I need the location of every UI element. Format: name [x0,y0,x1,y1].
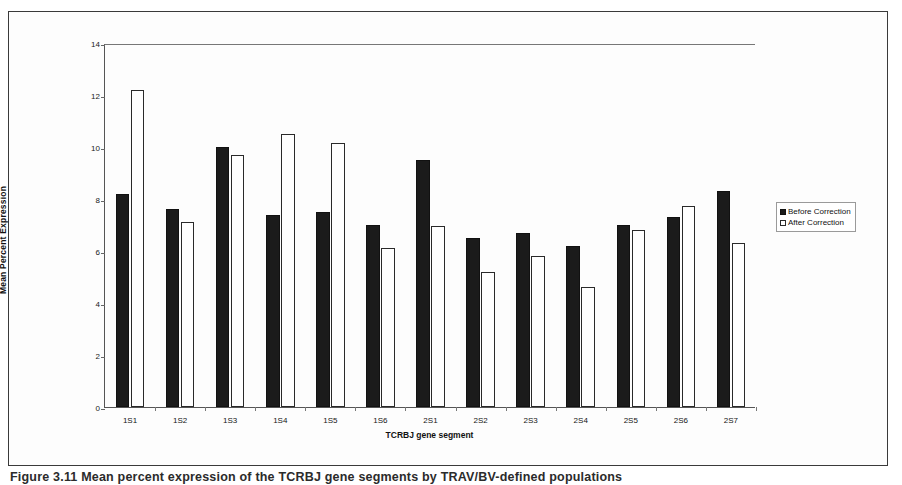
bar-before-correction[interactable] [667,217,681,407]
x-axis-tick-label: 1S4 [255,417,305,425]
bar-after-correction[interactable] [181,222,195,407]
bar-group: 1S2 [155,45,205,407]
chart-legend: Before Correction After Correction [776,202,856,232]
bar-before-correction[interactable] [266,215,280,407]
bar-group: 1S3 [205,45,255,407]
y-axis-title: Mean Percent Expression [0,185,8,293]
bar-before-correction[interactable] [166,209,180,407]
x-axis-tick-mark [155,407,156,411]
legend-item-before[interactable]: Before Correction [780,206,851,217]
bar-group: 2S6 [656,45,706,407]
bar-before-correction[interactable] [466,238,480,407]
bar-before-correction[interactable] [617,225,631,407]
y-axis-tick-label: 6 [74,249,100,257]
plot-area: 024681012141S11S21S31S41S51S62S12S22S32S… [104,44,755,408]
bar-after-correction[interactable] [231,155,245,407]
scanned-page: Mean Percent Expression 024681012141S11S… [0,0,902,485]
bar-after-correction[interactable] [331,143,345,407]
bar-group: 1S4 [255,45,305,407]
x-axis-tick-mark [456,407,457,411]
legend-label-before: Before Correction [788,207,851,216]
legend-item-after[interactable]: After Correction [780,217,851,228]
y-axis-tick-label: 4 [74,301,100,309]
figure-border: Mean Percent Expression 024681012141S11S… [8,11,888,466]
x-axis-tick-label: 2S3 [506,417,556,425]
bar-group: 2S5 [606,45,656,407]
x-axis-tick-label: 2S5 [606,417,656,425]
bar-before-correction[interactable] [566,246,580,407]
legend-swatch-filled-square-icon [780,209,786,215]
bar-group: 1S5 [305,45,355,407]
x-axis-tick-mark [506,407,507,411]
figure-caption: Figure 3.11 Mean percent expression of t… [10,470,894,485]
x-axis-tick-mark [405,407,406,411]
x-axis-tick-label: 1S5 [305,417,355,425]
x-axis-tick-label: 1S1 [105,417,155,425]
legend-swatch-open-square-icon [780,220,786,226]
y-axis-tick-label: 2 [74,353,100,361]
y-axis-tick-label: 12 [74,93,100,101]
x-axis-tick-label: 2S4 [556,417,606,425]
bar-group: 1S1 [105,45,155,407]
bar-group: 2S7 [706,45,756,407]
x-axis-tick-mark [556,407,557,411]
x-axis-tick-mark [355,407,356,411]
x-axis-tick-mark [656,407,657,411]
bar-before-correction[interactable] [516,233,530,407]
y-axis-tick-label: 10 [74,145,100,153]
bar-after-correction[interactable] [431,226,445,407]
bar-chart: Mean Percent Expression 024681012141S11S… [9,12,889,467]
bar-after-correction[interactable] [732,243,746,407]
bar-group: 2S1 [405,45,455,407]
bar-before-correction[interactable] [366,225,380,407]
bar-group: 1S6 [355,45,405,407]
x-axis-tick-label: 2S6 [656,417,706,425]
bar-after-correction[interactable] [581,287,595,407]
bar-after-correction[interactable] [531,256,545,407]
bar-group: 2S2 [456,45,506,407]
bar-before-correction[interactable] [416,160,430,407]
bar-before-correction[interactable] [216,147,230,407]
x-axis-tick-mark [205,407,206,411]
x-axis-tick-label: 1S6 [355,417,405,425]
bar-after-correction[interactable] [632,230,646,407]
x-axis-tick-label: 2S1 [405,417,455,425]
y-axis-tick-mark [101,409,105,410]
bar-group: 2S4 [556,45,606,407]
x-axis-tick-mark [255,407,256,411]
x-axis-tick-mark [706,407,707,411]
bar-before-correction[interactable] [116,194,130,407]
bar-after-correction[interactable] [131,90,145,407]
bar-before-correction[interactable] [316,212,330,407]
x-axis-tick-label: 1S3 [205,417,255,425]
x-axis-tick-mark [305,407,306,411]
x-axis-tick-mark [606,407,607,411]
bar-before-correction[interactable] [717,191,731,407]
x-axis-tick-label: 2S2 [456,417,506,425]
bar-after-correction[interactable] [481,272,495,407]
x-axis-tick-mark [756,407,757,411]
bar-group: 2S3 [506,45,556,407]
x-axis-title: TCRBJ gene segment [104,430,755,440]
legend-label-after: After Correction [788,218,844,227]
bar-after-correction[interactable] [281,134,295,407]
bar-after-correction[interactable] [381,248,395,407]
x-axis-tick-label: 2S7 [706,417,756,425]
y-axis-tick-label: 8 [74,197,100,205]
y-axis-tick-label: 14 [74,41,100,49]
x-axis-tick-label: 1S2 [155,417,205,425]
y-axis-tick-label: 0 [74,405,100,413]
bar-after-correction[interactable] [682,206,696,408]
